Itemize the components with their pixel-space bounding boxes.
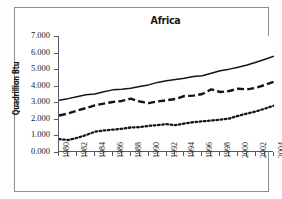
chart-figure: Africa Quadrillion Btu 0.0001.0002.0003.…	[0, 0, 282, 199]
x-tick-mark	[273, 152, 274, 156]
x-tick-label: 2004	[277, 142, 282, 158]
chart-title: Africa	[73, 14, 258, 27]
series-canvas	[59, 36, 274, 152]
plot-area	[58, 36, 273, 152]
series-line-lower	[59, 106, 274, 140]
series-line-middle	[59, 82, 274, 116]
series-line-total	[59, 56, 274, 100]
y-axis-title: Quadrillion Btu	[12, 56, 21, 122]
